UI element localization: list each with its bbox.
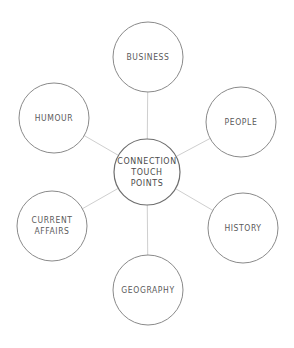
node-label-history: HISTORY <box>224 223 261 233</box>
connector-current-affairs <box>82 188 118 208</box>
connector-history <box>176 189 213 211</box>
node-label-business: BUSINESS <box>126 52 169 62</box>
node-label-current-affairs: AFFAIRS <box>34 226 69 236</box>
node-label-geography: GEOGRAPHY <box>121 285 174 295</box>
connector-people <box>176 138 210 156</box>
node-label-humour: HUMOUR <box>35 113 74 123</box>
node-label-current-affairs: CURRENT <box>32 215 73 225</box>
node-business: BUSINESS <box>113 22 183 92</box>
node-people: PEOPLE <box>206 87 276 157</box>
connector-humour <box>84 136 118 156</box>
connection-touch-points-diagram: BUSINESSPEOPLEHISTORYGEOGRAPHYCURRENTAFF… <box>0 0 294 348</box>
center-label: POINTS <box>131 178 164 188</box>
center-label: TOUCH <box>130 167 162 177</box>
node-history: HISTORY <box>208 193 278 263</box>
node-label-people: PEOPLE <box>225 117 258 127</box>
node-humour: HUMOUR <box>19 83 89 153</box>
node-current-affairs: CURRENTAFFAIRS <box>17 191 87 261</box>
center-label: CONNECTION <box>117 156 176 166</box>
center-hub: CONNECTIONTOUCHPOINTS <box>114 139 180 205</box>
node-geography: GEOGRAPHY <box>113 255 183 325</box>
